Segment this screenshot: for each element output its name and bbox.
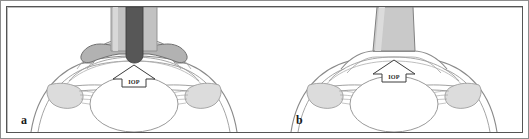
lens-globe: [350, 76, 438, 132]
panel-a-indentation-tonometry: IOP a: [7, 7, 262, 132]
panel-label-a: a: [21, 114, 27, 126]
ciliary-body-right: [445, 83, 481, 108]
ciliary-body-left: [47, 83, 83, 108]
figure-root: IOP a: [0, 0, 529, 139]
iop-arrow-label: IOP: [388, 73, 400, 80]
ciliary-body-right: [185, 83, 221, 108]
tonometer-sleeve-highlight: [113, 7, 118, 51]
panel-label-b: b: [296, 114, 303, 126]
iop-arrow-label: IOP: [128, 78, 140, 85]
tonometer-plunger-rod: [126, 7, 143, 63]
ciliary-body-left: [307, 83, 343, 108]
panel-b-applanation-tonometry: IOP b: [263, 7, 522, 132]
